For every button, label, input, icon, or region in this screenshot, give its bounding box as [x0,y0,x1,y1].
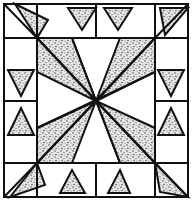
quilt-block-diagram [0,0,193,202]
